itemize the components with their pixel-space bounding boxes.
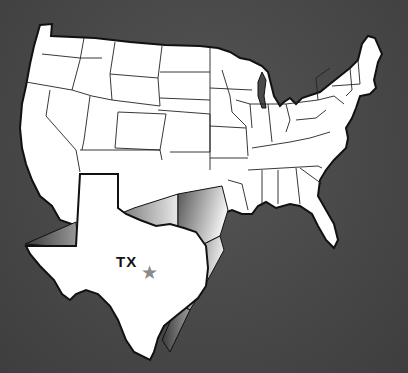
capital-star-icon: ★ — [141, 263, 158, 282]
tx-extrusion-left — [25, 222, 78, 248]
map-canvas: TX ★ — [0, 0, 408, 373]
us-map — [0, 0, 408, 373]
state-label-tx: TX — [116, 253, 137, 270]
